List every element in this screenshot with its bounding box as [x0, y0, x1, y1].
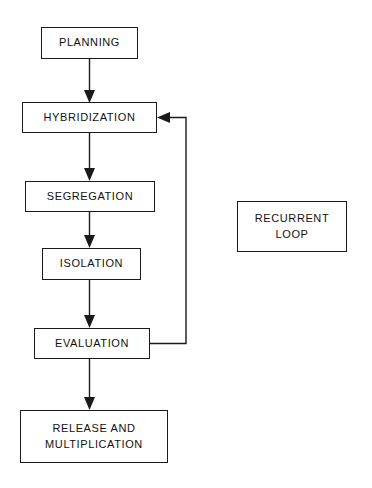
- edge-hybridization-to-segregation: [84, 133, 95, 181]
- node-isolation[interactable]: ISOLATION: [42, 248, 141, 280]
- node-evaluation[interactable]: EVALUATION: [34, 328, 150, 359]
- edge-evaluation-to-release: [84, 359, 95, 410]
- node-planning[interactable]: PLANNING: [41, 27, 138, 59]
- edge-evaluation-to-hybridization-feedback: [150, 112, 186, 344]
- node-release-and-multiplication[interactable]: RELEASE AND MULTIPLICATION: [20, 410, 168, 463]
- node-hybridization[interactable]: HYBRIDIZATION: [22, 102, 157, 133]
- edge-segregation-to-isolation: [84, 212, 95, 248]
- flowchart-canvas: PLANNING HYBRIDIZATION SEGREGATION ISOLA…: [0, 0, 372, 488]
- edge-planning-to-hybridization: [84, 59, 95, 103]
- edge-isolation-to-evaluation: [84, 280, 95, 328]
- node-recurrent-loop[interactable]: RECURRENT LOOP: [237, 201, 347, 252]
- node-segregation[interactable]: SEGREGATION: [25, 181, 155, 212]
